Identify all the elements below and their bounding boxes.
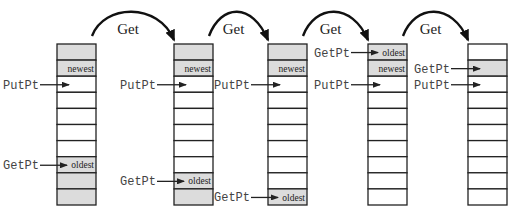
buffer-3: newestoldestPutPtGetPt [214, 44, 307, 205]
buffer-cell-empty [468, 92, 507, 108]
get-label: Get [117, 21, 139, 37]
get-transition-4: Get [403, 12, 468, 40]
cell-label-oldest: oldest [382, 48, 405, 58]
get-label: Get [320, 21, 342, 37]
buffer-cell-empty [368, 189, 407, 205]
get-label: Get [223, 21, 245, 37]
get-transition-1: Get [92, 12, 174, 40]
buffer-cell-empty [268, 125, 307, 141]
buffer-cell-empty [57, 92, 96, 108]
buffer-cell-empty [468, 173, 507, 189]
transitions: GetGetGetGet [92, 12, 468, 40]
buffer-cell-empty [268, 141, 307, 157]
putpt-label: PutPt [214, 79, 250, 93]
buffer-cell-empty [174, 108, 213, 124]
cell-label-oldest: oldest [188, 176, 211, 186]
putpt-label: PutPt [120, 79, 156, 93]
buffers: newestoldestPutPtGetPtnewestoldestPutPtG… [3, 44, 507, 205]
buffer-cell-empty [268, 92, 307, 108]
buffer-2: newestoldestPutPtGetPt [120, 44, 213, 205]
getpt-label: GetPt [214, 191, 250, 205]
get-transition-2: Get [209, 12, 268, 40]
buffer-cell-filled [57, 189, 96, 205]
putpt-label: PutPt [314, 79, 350, 93]
buffer-cell-empty [268, 108, 307, 124]
buffer-cell-empty [174, 141, 213, 157]
buffer-cell-empty [57, 141, 96, 157]
buffer-cell-empty [268, 173, 307, 189]
cell-label-newest: newest [279, 64, 306, 74]
getpt-label: GetPt [314, 47, 350, 61]
buffer-4: oldestnewestGetPtPutPt [314, 44, 407, 205]
getpt-label: GetPt [120, 175, 156, 189]
buffer-cell-filled [268, 44, 307, 60]
buffer-cell-filled [174, 44, 213, 60]
getpt-label: GetPt [414, 63, 450, 77]
buffer-cell-empty [368, 157, 407, 173]
buffer-cell-filled [57, 173, 96, 189]
buffer-cell-empty [174, 157, 213, 173]
buffer-cell-empty [57, 125, 96, 141]
buffer-cell-empty [368, 141, 407, 157]
buffer-cell-empty [268, 157, 307, 173]
cell-label-oldest: oldest [282, 193, 305, 203]
putpt-label: PutPt [414, 79, 450, 93]
buffer-cell-empty [368, 125, 407, 141]
buffer-cell-empty [468, 141, 507, 157]
buffer-cell-empty [174, 125, 213, 141]
buffer-cell-empty [368, 92, 407, 108]
buffer-cell-empty [468, 157, 507, 173]
buffer-cell-empty [468, 108, 507, 124]
buffer-cell-empty [174, 92, 213, 108]
cell-label-newest: newest [185, 64, 212, 74]
buffer-cell-empty [468, 189, 507, 205]
putpt-label: PutPt [3, 79, 39, 93]
get-transition-3: Get [303, 12, 368, 40]
getpt-label: GetPt [3, 159, 39, 173]
buffer-cell-empty [368, 173, 407, 189]
buffer-5: GetPtPutPt [414, 44, 507, 205]
circular-buffer-diagram: GetGetGetGet newestoldestPutPtGetPtnewes… [0, 0, 514, 215]
buffer-1: newestoldestPutPtGetPt [3, 44, 96, 205]
buffer-cell-empty [368, 108, 407, 124]
buffer-cell-empty [468, 125, 507, 141]
buffer-cell-empty [57, 108, 96, 124]
buffer-cell-filled [174, 189, 213, 205]
buffer-cell-filled [57, 44, 96, 60]
cell-label-newest: newest [379, 64, 406, 74]
cell-label-oldest: oldest [71, 160, 94, 170]
cell-label-newest: newest [68, 64, 95, 74]
get-label: Get [420, 21, 442, 37]
buffer-cell-empty [468, 44, 507, 60]
